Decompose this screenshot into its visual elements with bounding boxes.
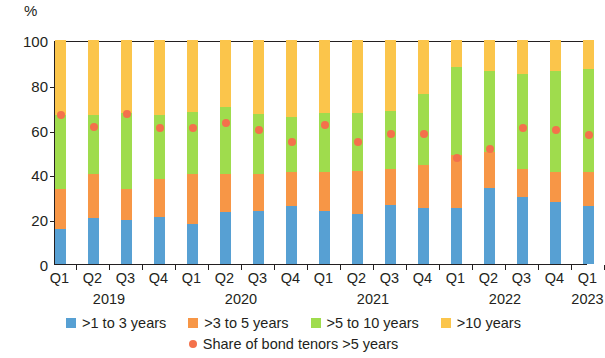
bar-stack [253,40,264,264]
y-axis-tick-label: 20 [4,213,48,228]
chart-legend: >1 to 3 years>3 to 5 years>5 to 10 years… [0,316,587,358]
x-axis-quarter-label: Q1 [578,270,597,286]
bar-segment [88,174,99,218]
bar-stack [88,40,99,264]
bar-segment [583,172,594,206]
bar-segment [286,206,297,264]
marker-dot [288,138,296,146]
bar-segment [187,224,198,264]
legend-row-categories: >1 to 3 years>3 to 5 years>5 to 10 years… [0,316,587,331]
marker-dot [321,121,329,129]
bar-stack [517,40,528,264]
bar-segment [418,208,429,264]
bar-segment [220,212,231,264]
legend-item[interactable]: >3 to 5 years [188,316,288,331]
y-axis-tick-label: 100 [4,34,48,49]
bar-segment [88,218,99,264]
legend-swatch-icon [441,318,451,328]
marker-dot [585,131,593,139]
legend-item-label: >1 to 3 years [82,316,166,331]
marker-dot [90,123,98,131]
x-axis-quarter-label: Q3 [116,270,135,286]
bar-segment [484,152,495,188]
marker-dot [420,130,428,138]
legend-row-marker: Share of bond tenors >5 years [0,337,587,352]
bar-segment [583,40,594,69]
bar-segment [517,40,528,74]
y-axis-tick-labels: 100806040200 [0,41,48,265]
marker-dot [453,154,461,162]
legend-item[interactable]: >5 to 10 years [311,316,419,331]
y-axis-unit-label: % [24,2,37,19]
bar-stack [583,40,594,264]
x-axis-quarter-label: Q1 [50,270,69,286]
x-axis-year-label: 2019 [93,291,125,307]
bar-segment [154,40,165,115]
legend-dot-icon [189,340,197,348]
x-axis-year-label: 2022 [489,291,521,307]
x-axis-quarter-label: Q2 [347,270,366,286]
bar-segment [286,40,297,117]
bar-segment [418,40,429,94]
bar-segment [286,172,297,206]
marker-dot [552,126,560,134]
bar-segment [253,40,264,114]
bar-segment [385,205,396,264]
bar-segment [55,40,66,115]
marker-dot [222,119,230,127]
bar-segment [121,220,132,264]
x-axis-quarter-label: Q1 [182,270,201,286]
legend-item[interactable]: >10 years [441,316,521,331]
bar-segment [352,171,363,214]
x-axis-quarter-label: Q1 [314,270,333,286]
marker-dot [354,138,362,146]
bar-stack [385,40,396,264]
y-axis-tick-label: 80 [4,78,48,93]
bar-segment [451,155,462,208]
bar-segment [187,174,198,223]
bar-segment [550,71,561,172]
y-axis-tick [50,221,55,222]
x-axis-quarter-label: Q4 [413,270,432,286]
x-axis-quarter-label: Q3 [512,270,531,286]
marker-dot [255,126,263,134]
bar-segment [484,188,495,264]
bar-segment [517,74,528,169]
bar-segment [385,40,396,111]
x-axis-year-label: 2023 [571,291,603,307]
x-axis-year-label: 2020 [225,291,257,307]
x-axis-quarter-label: Q3 [380,270,399,286]
bar-segment [550,202,561,264]
bar-segment [55,189,66,229]
x-axis-quarter-label: Q4 [149,270,168,286]
legend-swatch-icon [188,318,198,328]
y-axis-tick [50,87,55,88]
bar-segment [121,40,132,113]
legend-item-label: Share of bond tenors >5 years [203,337,398,352]
x-axis-quarter-label: Q4 [281,270,300,286]
bar-segment [451,40,462,67]
bar-stack [154,40,165,264]
legend-item[interactable]: Share of bond tenors >5 years [189,337,398,352]
marker-dot [486,145,494,153]
bar-segment [517,197,528,264]
bar-segment [385,111,396,169]
y-axis-tick-label: 60 [4,123,48,138]
bar-stack [352,40,363,264]
bar-segment [154,179,165,217]
bar-segment [550,172,561,202]
y-axis-tick-label: 40 [4,168,48,183]
x-axis-year-labels: 20192020202120222023 [54,291,587,311]
bar-stack [418,40,429,264]
bar-stack [187,40,198,264]
legend-swatch-icon [311,318,321,328]
bar-segment [484,71,495,152]
legend-item[interactable]: >1 to 3 years [66,316,166,331]
bar-segment [484,40,495,71]
bar-segment [319,40,330,113]
marker-dot [387,130,395,138]
bar-stack [319,40,330,264]
bar-segment [385,169,396,205]
bar-segment [517,169,528,197]
bar-segment [55,229,66,264]
